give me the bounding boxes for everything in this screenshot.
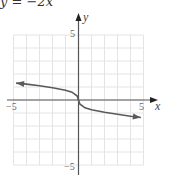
y-axis — [76, 13, 82, 175]
x-axis-label: x — [154, 99, 161, 113]
x-tick-min: −5 — [6, 101, 17, 112]
y-tick-max: 5 — [70, 28, 75, 39]
x-tick-max: 5 — [139, 101, 144, 112]
curve-right-arrow-icon — [133, 114, 141, 120]
y-axis-arrow-icon — [76, 13, 82, 21]
y-axis-label: y — [82, 10, 89, 24]
y-tick-min: −5 — [64, 161, 75, 172]
chart-plot: x y −5 5 5 −5 — [0, 0, 169, 180]
x-axis — [7, 97, 158, 103]
